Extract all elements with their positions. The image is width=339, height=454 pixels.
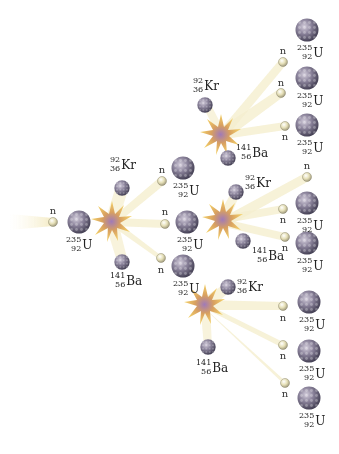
uranium-235-label: 23592U [177, 235, 203, 253]
neutron-label: n [280, 45, 286, 56]
uranium-235-label: 23592U [66, 235, 92, 253]
neutron-label: n [278, 77, 284, 88]
uranium-235-label: 23592U [297, 256, 323, 274]
uranium-235-label: 23592U [173, 279, 199, 297]
uranium-235-label: 23592U [299, 411, 325, 429]
fission-chain-diagram: n n n n n n n n n n n n n 23592U 23592U … [0, 0, 339, 454]
uranium-235-label: 23592U [173, 181, 199, 199]
neutron-label: n [162, 206, 168, 217]
uranium-235-label: 23592U [297, 216, 323, 234]
uranium-235-label: 23592U [297, 138, 323, 156]
krypton-92-label: 9236Kr [237, 277, 263, 295]
neutron-label: n [304, 160, 310, 171]
neutron-label: n [280, 214, 286, 225]
uranium-235-label: 23592U [297, 43, 323, 61]
barium-141-label: 14156Ba [196, 358, 228, 376]
krypton-92-label: 9236Kr [245, 173, 271, 191]
neutron-label: n [280, 350, 286, 361]
barium-141-label: 14156Ba [110, 271, 142, 289]
neutron-label: n [282, 131, 288, 142]
diagram-graphics [0, 0, 339, 454]
uranium-235-label: 23592U [299, 315, 325, 333]
neutron-label: n [282, 388, 288, 399]
barium-141-label: 14156Ba [252, 246, 284, 264]
uranium-235-label: 23592U [299, 364, 325, 382]
barium-141-label: 14156Ba [236, 143, 268, 161]
uranium-235-label: 23592U [297, 91, 323, 109]
krypton-92-label: 9236Kr [110, 155, 136, 173]
neutron-label: n [159, 164, 165, 175]
neutron-label: n [280, 312, 286, 323]
krypton-92-label: 9236Kr [193, 76, 219, 94]
neutron-label: n [158, 264, 164, 275]
neutron-label: n [50, 205, 56, 216]
